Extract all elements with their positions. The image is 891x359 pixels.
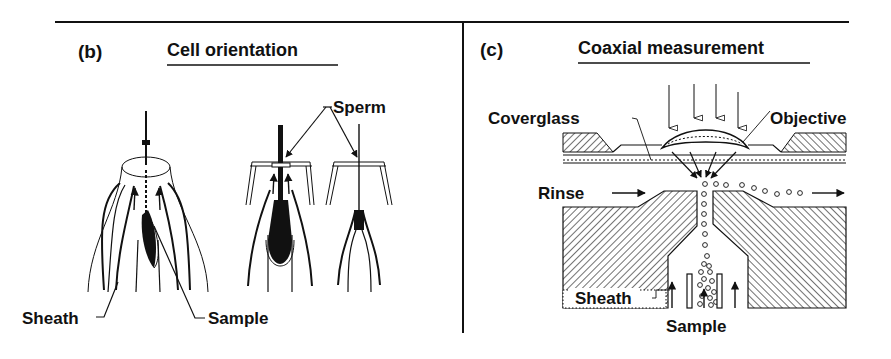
objective-lens	[662, 130, 748, 148]
flow-cell-figure: (b) Cell orientation	[0, 0, 891, 359]
label-sheath-c: Sheath	[575, 289, 632, 308]
cell-1-nozzle	[88, 111, 208, 292]
coverglass	[563, 155, 846, 163]
upper-block-left	[563, 133, 613, 152]
flow-cell-right	[713, 191, 846, 308]
label-sample-b: Sample	[208, 309, 268, 328]
cell-3-channel	[326, 124, 392, 292]
focused-rays	[672, 152, 736, 178]
panel-b-tag: (b)	[78, 41, 102, 62]
panel-c-tag: (c)	[480, 39, 503, 60]
label-sheath-b: Sheath	[22, 309, 79, 328]
label-coverglass: Coverglass	[488, 109, 580, 128]
cell-2-channel	[246, 125, 314, 292]
label-sperm: Sperm	[333, 98, 386, 117]
label-objective: Objective	[770, 109, 847, 128]
panel-c-title: Coaxial measurement	[578, 38, 764, 58]
panel-b-title: Cell orientation	[167, 40, 298, 60]
upper-block-right	[781, 133, 846, 152]
panel-b: (b) Cell orientation	[22, 40, 392, 328]
illumination-arrows	[669, 84, 738, 128]
panel-c: (c) Coaxial measurement	[480, 38, 847, 336]
sperm-callout: Sperm	[286, 98, 386, 157]
label-sample-c: Sample	[666, 317, 726, 336]
label-rinse: Rinse	[538, 184, 584, 203]
